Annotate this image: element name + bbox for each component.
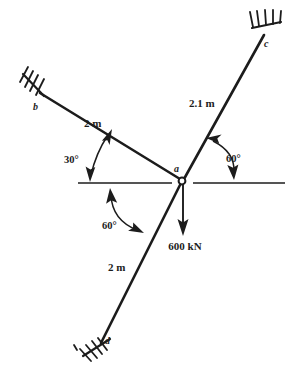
support-d-hatch-5: [74, 345, 77, 350]
support-d: d: [74, 335, 111, 361]
angle-label-60-right: 60°: [226, 153, 241, 164]
angle-arc-60-deg-right: 60°: [206, 134, 241, 180]
angle-label-60-lower: 60°: [102, 220, 117, 231]
angle-arc-60-right-head-lower: [227, 164, 238, 180]
angle-arc-60-deg-lower: 60°: [102, 188, 144, 233]
diagram-canvas: b c d a: [0, 0, 302, 372]
dimension-label-ab: 2 m: [84, 117, 101, 129]
support-c-hatch-2: [257, 11, 259, 26]
statics-diagram-figure: b c d a: [0, 0, 302, 372]
joint-label-c: c: [264, 38, 269, 49]
support-c-hatch-5: [280, 11, 281, 23]
joint-a: a: [174, 163, 185, 184]
support-b: b: [20, 67, 44, 112]
joint-a-pin: [179, 178, 186, 185]
support-c-hatch-3: [265, 10, 266, 25]
angle-label-30: 30°: [64, 154, 79, 165]
support-c: c: [250, 10, 281, 49]
dimension-label-ac: 2.1 m: [189, 97, 215, 109]
joint-label-d: d: [105, 335, 111, 346]
load-label: 600 kN: [168, 240, 201, 252]
dimension-label-ad: 2 m: [108, 261, 125, 273]
angle-arc-30-deg: 30°: [64, 129, 112, 182]
joint-label-b: b: [33, 101, 38, 112]
angle-arc-30-head-lower: [86, 167, 96, 183]
support-b-hatch-1: [20, 67, 28, 82]
load-arrow-600kN: 600 kN: [168, 184, 201, 252]
frame-members: [40, 35, 264, 343]
joint-label-a: a: [174, 163, 179, 174]
support-c-hatch-1: [250, 12, 253, 27]
